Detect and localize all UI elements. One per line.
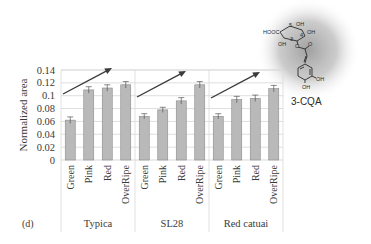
y-tick-label: 0.12 bbox=[37, 77, 55, 88]
molecule-name: 3-CQA bbox=[291, 96, 322, 107]
bars bbox=[65, 82, 279, 160]
svg-text:OH: OH bbox=[296, 21, 304, 27]
panel-label: (d) bbox=[22, 218, 34, 230]
svg-text:O: O bbox=[308, 41, 313, 47]
group-label: Red catuai bbox=[224, 218, 269, 229]
x-tick-label: Red bbox=[102, 165, 113, 181]
x-tick-label: Red bbox=[176, 165, 187, 181]
x-tick-label: OverRipe bbox=[268, 164, 279, 203]
x-tick-label: Red bbox=[250, 165, 261, 181]
y-tick-label: 0.14 bbox=[37, 65, 56, 76]
svg-text:HOOC: HOOC bbox=[263, 29, 280, 35]
y-axis-label: Normalized area bbox=[17, 78, 29, 151]
svg-text:OH: OH bbox=[302, 84, 310, 90]
chart-figure: 00.020.040.060.080.10.120.14 GreenPinkRe… bbox=[0, 0, 371, 244]
trend-arrow bbox=[137, 73, 183, 97]
x-tick-label: Pink bbox=[157, 165, 168, 183]
svg-text:3: 3 bbox=[290, 36, 293, 42]
x-tick-label: OverRipe bbox=[194, 164, 205, 203]
svg-text:OH: OH bbox=[316, 76, 324, 82]
x-tick-label: Pink bbox=[83, 165, 94, 183]
y-tick-label: 0.02 bbox=[37, 142, 55, 153]
bar bbox=[84, 90, 94, 160]
bar bbox=[176, 101, 186, 160]
x-tick-label: OverRipe bbox=[120, 164, 131, 203]
bar bbox=[232, 100, 242, 160]
x-tick-label: Green bbox=[213, 165, 224, 189]
bar bbox=[158, 110, 168, 160]
bar bbox=[139, 116, 149, 160]
svg-text:4: 4 bbox=[300, 32, 303, 38]
gridlines bbox=[61, 70, 283, 147]
bar bbox=[250, 98, 260, 160]
svg-text:OH: OH bbox=[307, 29, 315, 35]
svg-text:OH: OH bbox=[278, 41, 286, 47]
y-tick-label: 0.08 bbox=[37, 103, 55, 114]
x-axis-labels: GreenPinkRedOverRipeGreenPinkRedOverRipe… bbox=[65, 164, 280, 203]
y-tick-label: 0 bbox=[50, 155, 55, 166]
bar bbox=[102, 88, 112, 160]
bar bbox=[269, 89, 279, 160]
group-labels: TypicaSL28Red catuai bbox=[84, 218, 269, 229]
bar bbox=[65, 120, 75, 160]
bar bbox=[213, 116, 223, 160]
x-tick-label: Green bbox=[139, 165, 150, 189]
svg-text:5: 5 bbox=[289, 22, 292, 28]
x-tick-label: Green bbox=[65, 165, 76, 189]
x-tick-label: Pink bbox=[231, 165, 242, 183]
svg-text:O: O bbox=[295, 43, 300, 49]
bar bbox=[121, 85, 131, 160]
y-tick-label: 0.1 bbox=[42, 90, 55, 101]
y-tick-label: 0.04 bbox=[37, 129, 56, 140]
trend-arrow bbox=[211, 74, 257, 98]
y-axis-ticks: 00.020.040.060.080.10.120.14 bbox=[37, 65, 56, 166]
group-label: Typica bbox=[84, 218, 113, 229]
group-label: SL28 bbox=[161, 218, 184, 229]
y-tick-label: 0.06 bbox=[37, 116, 55, 127]
bar bbox=[195, 85, 205, 160]
bar-chart: 00.020.040.060.080.10.120.14 GreenPinkRe… bbox=[0, 0, 371, 244]
plot-frame bbox=[61, 70, 283, 232]
